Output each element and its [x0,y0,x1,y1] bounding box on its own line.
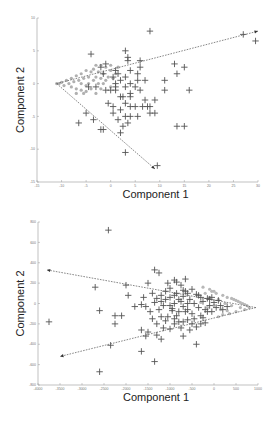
data-point-cross [187,327,193,333]
data-point-cross [189,286,195,292]
data-point-cross [178,325,184,331]
data-point-cross [167,326,173,332]
data-point-cross [117,77,123,83]
data-point-dot [75,74,78,77]
data-point-cross [98,64,104,70]
data-point-cross [115,116,121,122]
data-point-cross [191,300,197,306]
data-point-dot [75,92,78,95]
data-point-cross [154,321,160,327]
data-point-dot [97,82,100,85]
data-point-cross [137,87,143,93]
data-point-cross [117,107,123,113]
data-point-cross [149,290,155,296]
data-point-cross [151,358,157,364]
data-point-cross [88,51,94,57]
data-point-cross [110,110,116,116]
data-point-cross [171,61,177,67]
x-tick-label: -3500 [56,387,65,391]
data-point-cross [161,77,167,83]
data-point-cross [161,87,167,93]
data-point-dot [89,70,92,73]
x-axis-label: Component 1 [122,188,188,200]
data-point-cross [142,77,148,83]
x-tick-label: 1000 [254,387,262,391]
x-tick-label: 25 [231,184,235,188]
data-point-cross [112,87,118,93]
data-point-cross [105,100,111,106]
y-tick-label: -10 [30,147,35,151]
data-point-dot [212,290,215,293]
data-point-cross [83,110,89,116]
data-point-cross [181,123,187,129]
y-tick-label: 5 [33,49,35,53]
data-point-cross [154,162,160,168]
data-point-dot [99,77,102,80]
data-point-dot [239,306,242,309]
data-point-cross [134,113,140,119]
data-point-cross [122,100,128,106]
data-point-dot [80,82,83,85]
figure: -15-10-50510152025301050-5-10-15Componen… [0,0,276,424]
arrowhead-icon [60,354,64,357]
data-point-cross [149,316,155,322]
data-point-cross [125,292,131,298]
data-point-cross [158,314,164,320]
x-tick-label: 0 [110,184,112,188]
data-point-cross [127,80,133,86]
data-point-cross [103,61,109,67]
data-point-cross [122,149,128,155]
data-point-dot [77,79,80,82]
data-point-dot [80,89,83,92]
x-tick-label: 0 [213,387,215,391]
data-point-dot [107,75,110,78]
data-point-cross [195,304,201,310]
data-point-cross [125,57,131,63]
data-point-dot [82,92,85,95]
data-point-dot [221,294,224,297]
data-point-cross [142,97,148,103]
data-point-cross [156,306,162,312]
data-point-dot [104,79,107,82]
y-tick-label: 200 [30,281,36,285]
data-point-cross [127,67,133,73]
data-point-cross [252,38,258,44]
data-point-cross [125,120,131,126]
data-point-cross [134,77,140,83]
data-point-cross [105,227,111,233]
x-tick-label: 500 [233,387,239,391]
data-point-cross [132,103,138,109]
y-axis-label: Component 2 [14,67,26,133]
data-point-cross [122,48,128,54]
data-point-dot [72,80,75,83]
data-point-dot [94,64,97,67]
data-point-cross [137,57,143,63]
y-tick-label: -200 [29,322,36,326]
data-point-cross [193,341,199,347]
data-point-dot [109,64,112,67]
y-tick-label: -400 [29,342,36,346]
data-point-cross [92,284,98,290]
data-point-dot [223,302,226,305]
data-point-cross [193,324,199,330]
data-point-cross [162,288,168,294]
data-point-dot [230,297,233,300]
data-point-cross [76,120,82,126]
x-tick-label: -4000 [34,387,43,391]
data-point-cross [122,113,128,119]
data-point-dot [230,304,233,307]
y-tick-label: 400 [30,261,36,265]
data-point-dot [204,292,207,295]
data-point-dot [208,288,211,291]
y-tick-label: -800 [29,383,36,387]
data-point-cross [158,336,164,342]
data-point-cross [122,74,128,80]
data-point-cross [186,87,192,93]
x-tick-label: -2500 [100,387,109,391]
y-axis-label: Component 2 [14,270,26,336]
data-point-cross [147,28,153,34]
y-tick-label: 0 [34,302,36,306]
loading-vector-arrow [60,308,256,357]
data-point-cross [132,303,138,309]
data-point-dot [89,87,92,90]
